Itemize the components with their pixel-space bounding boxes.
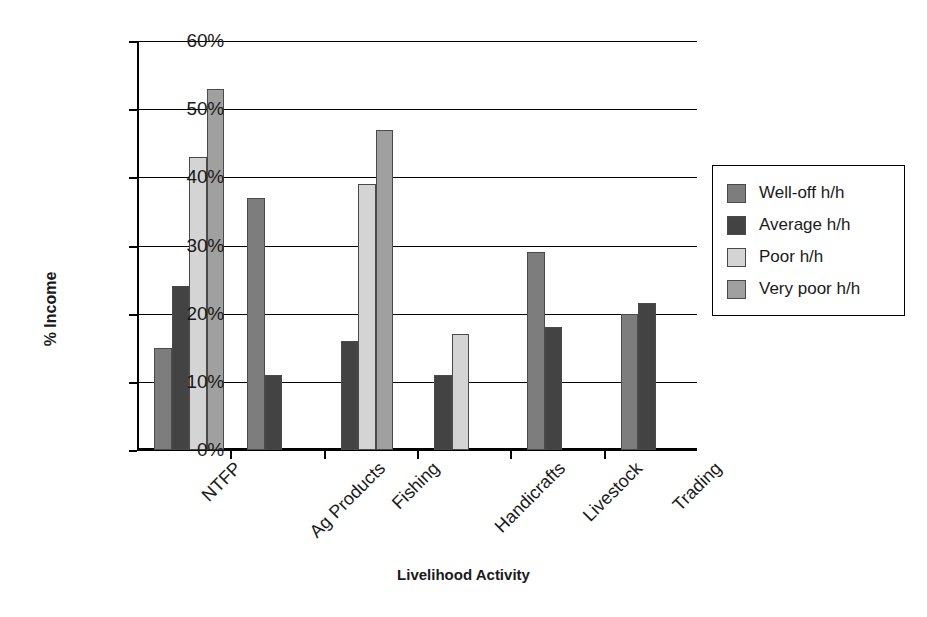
legend-swatch (727, 280, 746, 299)
y-tick-mark (129, 450, 137, 452)
y-tick-mark (129, 41, 137, 43)
x-category-label: Ag Products (306, 458, 390, 542)
legend-swatch (727, 184, 746, 203)
legend-item: Well-off h/h (727, 177, 904, 209)
bar (265, 375, 283, 450)
bar (358, 184, 376, 450)
legend-label: Average h/h (759, 215, 850, 235)
y-tick-label: 40% (187, 167, 224, 186)
x-category-label: NTFP (198, 458, 246, 506)
bar (545, 327, 563, 450)
y-tick-mark (129, 177, 137, 179)
x-tick-mark (324, 450, 326, 459)
x-category-label: Trading (668, 458, 726, 516)
y-tick-mark (129, 246, 137, 248)
legend-label: Very poor h/h (759, 279, 860, 299)
x-tick-mark (417, 450, 419, 459)
bar (207, 89, 225, 450)
x-category-label: Fishing (388, 458, 444, 514)
bar (527, 252, 545, 450)
x-category-label: Livestock (579, 458, 647, 526)
legend-swatch (727, 216, 746, 235)
legend-item: Poor h/h (727, 241, 904, 273)
legend-item: Very poor h/h (727, 273, 904, 305)
y-tick-mark (129, 109, 137, 111)
x-axis-title: Livelihood Activity (0, 566, 927, 583)
bar (434, 375, 452, 450)
bar (452, 334, 470, 450)
y-tick-label: 20% (187, 304, 224, 323)
legend-label: Poor h/h (759, 247, 823, 267)
y-axis-title: % Income (42, 271, 60, 346)
y-tick-label: 30% (187, 236, 224, 255)
bar (376, 130, 394, 450)
y-tick-mark (129, 382, 137, 384)
bar (638, 303, 656, 450)
y-tick-label: 10% (187, 372, 224, 391)
x-category-label: Handicrafts (491, 458, 570, 537)
bar-chart: % Income Livelihood Activity Well-off h/… (0, 0, 927, 617)
bar (341, 341, 359, 450)
legend-swatch (727, 248, 746, 267)
legend-label: Well-off h/h (759, 183, 844, 203)
x-tick-mark (604, 450, 606, 459)
bar (247, 198, 265, 450)
legend-item: Average h/h (727, 209, 904, 241)
bar (621, 314, 639, 450)
bar (154, 348, 172, 450)
y-tick-label: 50% (187, 99, 224, 118)
x-tick-mark (510, 450, 512, 459)
chart-legend: Well-off h/hAverage h/hPoor h/hVery poor… (712, 165, 905, 316)
y-tick-mark (129, 314, 137, 316)
y-tick-label: 60% (187, 31, 224, 50)
y-tick-label: 0% (197, 440, 224, 459)
